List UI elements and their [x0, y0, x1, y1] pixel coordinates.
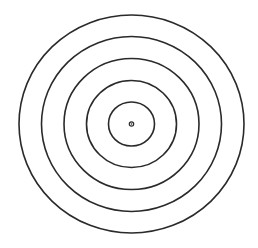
center-dot-core: [131, 123, 133, 125]
concentric-circles-diagram: [0, 0, 258, 248]
